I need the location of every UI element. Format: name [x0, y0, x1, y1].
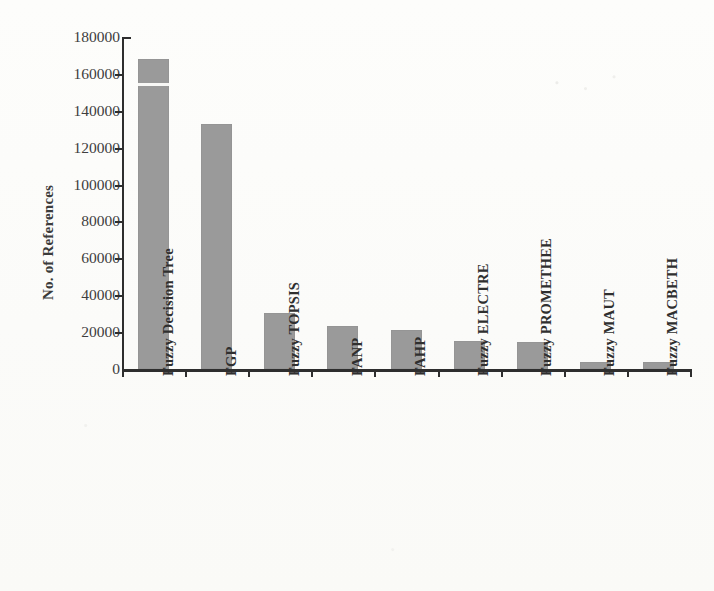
y-axis-tick	[115, 74, 123, 76]
bar-chart: No. of References 0200004000060000800001…	[0, 0, 714, 591]
y-axis-tick-label: 40000	[44, 287, 120, 303]
y-axis-tick	[115, 258, 123, 260]
x-axis-category-label: Fuzzy TOPSIS	[286, 282, 303, 376]
y-axis-tick	[115, 185, 123, 187]
bar	[201, 124, 232, 369]
x-axis-category-label: Fuzzy MACBETH	[664, 258, 681, 376]
y-axis-tick	[122, 37, 131, 39]
x-axis-category-label: Fuzzy Decision Tree	[160, 248, 177, 376]
y-axis-tick	[115, 221, 123, 223]
y-axis-tick-label: 100000	[44, 177, 120, 193]
y-axis-line	[122, 37, 124, 371]
x-axis-category-label: Fuzzy MAUT	[601, 289, 618, 376]
x-axis-tick	[690, 369, 692, 377]
y-axis-tick-label: 80000	[44, 213, 120, 229]
y-axis-tick	[115, 332, 123, 334]
x-axis-category-label: FANP	[349, 338, 366, 376]
x-axis-category-label: Fuzzy PROMETHEE	[538, 238, 555, 376]
x-axis-category-label: Fuzzy ELECTRE	[475, 263, 492, 376]
y-axis-tick-label: 0	[44, 361, 120, 377]
y-axis-tick-label: 120000	[44, 140, 120, 156]
y-axis-tick	[115, 148, 123, 150]
x-axis-category-label: FAHP	[412, 337, 429, 376]
y-axis-tick-label: 180000	[44, 29, 120, 45]
y-axis-tick	[115, 111, 123, 113]
y-axis-tick-label: 20000	[44, 324, 120, 340]
y-axis-tick-label: 140000	[44, 103, 120, 119]
y-axis-tick-label: 160000	[44, 66, 120, 82]
scan-artifact-line	[138, 83, 169, 86]
x-axis-category-label: FGP	[223, 346, 240, 376]
y-axis-tick-labels: 0200004000060000800001000001200001400001…	[44, 0, 120, 591]
x-axis-category-labels: Fuzzy Decision TreeFGPFuzzy TOPSISFANPFA…	[122, 376, 690, 576]
y-axis-tick	[115, 295, 123, 297]
y-axis-tick-label: 60000	[44, 250, 120, 266]
